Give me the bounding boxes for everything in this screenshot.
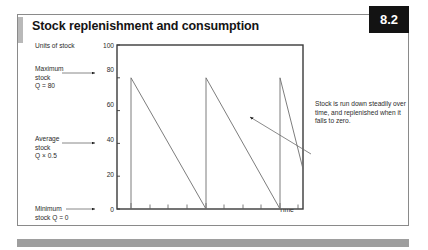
title-accent-bar bbox=[18, 17, 23, 43]
page-footer-bar bbox=[17, 239, 409, 247]
figure-card: Stock replenishment and consumption 8.2 … bbox=[17, 14, 409, 226]
chart-area: Units of stock 100 80 60 40 20 0 Maximum… bbox=[18, 41, 410, 227]
leader-line-description bbox=[250, 117, 311, 154]
figure-title: Stock replenishment and consumption bbox=[32, 19, 259, 33]
annotation-overlay bbox=[18, 41, 410, 227]
figure-number-badge: 8.2 bbox=[369, 6, 409, 33]
